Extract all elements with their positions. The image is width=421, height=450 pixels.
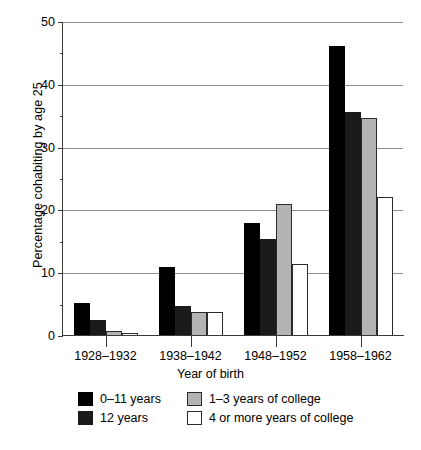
- legend-swatch: [187, 392, 202, 406]
- bar: [361, 118, 377, 336]
- y-axis-tick-label: 50: [41, 15, 55, 29]
- bar: [159, 267, 175, 336]
- bar: [377, 197, 393, 336]
- y-axis-minor-tick: [60, 179, 64, 180]
- bar: [90, 320, 106, 336]
- bar-group: 1948–1952: [244, 22, 308, 336]
- bar: [292, 264, 308, 336]
- bar: [74, 303, 90, 336]
- legend-label: 1–3 years of college: [209, 392, 321, 406]
- y-axis-minor-tick: [60, 242, 64, 243]
- y-axis-tick-label: 30: [41, 141, 55, 155]
- bar: [276, 204, 292, 336]
- legend-swatch: [78, 411, 93, 425]
- x-axis-tick: [361, 336, 362, 347]
- legend-item: 4 or more years of college: [187, 411, 354, 425]
- y-axis-tick: [58, 210, 63, 211]
- legend-label: 12 years: [100, 411, 148, 425]
- legend-item: 1–3 years of college: [187, 392, 354, 406]
- legend-label: 0–11 years: [100, 392, 161, 406]
- legend-item: 0–11 years: [78, 392, 161, 406]
- legend-item: 12 years: [78, 411, 161, 425]
- bar-group: 1928–1932: [74, 22, 138, 336]
- y-axis-tick-label: 40: [41, 78, 55, 92]
- y-axis-tick-label: 10: [41, 266, 55, 280]
- plot-area: 010203040501928–19321938–19421948–195219…: [62, 22, 402, 336]
- x-axis-tick-label: 1948–1952: [244, 349, 307, 363]
- bar: [329, 46, 345, 336]
- bar: [244, 223, 260, 336]
- chart-legend: 0–11 years1–3 years of college12 years4 …: [78, 392, 353, 425]
- legend-swatch: [78, 392, 93, 406]
- y-axis-tick: [58, 85, 63, 86]
- y-axis-tick: [58, 148, 63, 149]
- legend-swatch: [187, 411, 202, 425]
- legend-label: 4 or more years of college: [209, 411, 354, 425]
- bar: [345, 112, 361, 336]
- x-axis-tick: [276, 336, 277, 347]
- bar: [260, 239, 276, 336]
- bar-group: 1938–1942: [159, 22, 223, 336]
- bar: [191, 312, 207, 336]
- x-axis-tick-label: 1958–1962: [329, 349, 392, 363]
- y-axis-minor-tick: [60, 53, 64, 54]
- x-axis-line: [62, 335, 404, 336]
- x-axis-tick-label: 1938–1942: [159, 349, 222, 363]
- bar: [175, 306, 191, 336]
- y-axis-minor-tick: [60, 116, 64, 117]
- bar: [207, 312, 223, 336]
- x-axis-tick: [106, 336, 107, 347]
- bar-group: 1958–1962: [329, 22, 393, 336]
- x-axis-tick-label: 1928–1932: [74, 349, 137, 363]
- y-axis-minor-tick: [60, 305, 64, 306]
- bar-chart-figure: Percentage cohabiting by age 25 01020304…: [0, 0, 421, 450]
- y-axis-tick-label: 0: [48, 329, 55, 343]
- x-axis-title: Year of birth: [0, 367, 421, 381]
- y-axis-tick: [58, 22, 63, 23]
- y-axis-tick-label: 20: [41, 203, 55, 217]
- caption-sliver: [0, 443, 421, 450]
- x-axis-tick: [191, 336, 192, 347]
- y-axis-tick: [58, 273, 63, 274]
